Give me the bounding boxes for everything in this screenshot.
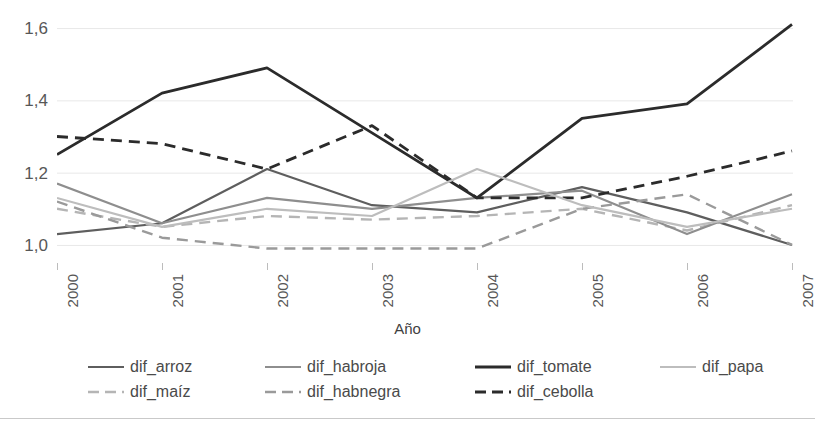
legend-swatch-icon-dif_papa [660,361,696,373]
legend-swatch-icon-dif_maíz [88,386,124,398]
legend-label-dif_maíz: dif_maíz [130,384,190,400]
legend-row-1: dif_arrozdif_habrojadif_tomatedif_papa [0,355,815,379]
x-tick-2007 [792,263,793,270]
series-line-dif_arroz [57,169,792,245]
gridlines [57,29,793,246]
line-chart: 1,01,21,41,6 200020012002200320042005200… [0,0,815,433]
x-axis: 20002001200220032004200520062007 [57,263,793,321]
x-tick-label-2004: 2004 [485,274,500,307]
legend-label-dif_tomate: dif_tomate [517,359,592,375]
x-tick-2001 [162,263,163,270]
legend-swatch-icon-dif_cebolla [475,386,511,398]
x-tick-label-2007: 2007 [800,274,815,307]
legend-item-dif_tomate[interactable]: dif_tomate [475,355,592,379]
x-tick-2000 [57,263,58,270]
legend-label-dif_cebolla: dif_cebolla [517,384,594,400]
legend-swatch-icon-dif_tomate [475,361,511,373]
x-tick-label-2002: 2002 [275,274,290,307]
legend-swatch-icon-dif_arroz [88,361,124,373]
legend-item-dif_maíz[interactable]: dif_maíz [88,380,190,404]
x-tick-label-2006: 2006 [695,274,710,307]
legend-item-dif_habnegra[interactable]: dif_habnegra [265,380,400,404]
series-lines [57,24,792,248]
legend-swatch-icon-dif_habnegra [265,386,301,398]
bottom-divider [0,418,815,419]
y-tick-label-1,2: 1,2 [24,164,48,181]
chart-title [0,0,815,2]
legend-label-dif_habnegra: dif_habnegra [307,384,400,400]
y-tick-label-1,4: 1,4 [24,92,48,109]
legend-item-dif_cebolla[interactable]: dif_cebolla [475,380,594,404]
x-tick-label-2005: 2005 [590,274,605,307]
series-line-dif_cebolla [57,126,792,198]
x-tick-2006 [687,263,688,270]
legend-label-dif_habroja: dif_habroja [307,359,386,375]
x-axis-title: Año [0,320,815,337]
plot-svg [57,10,793,263]
legend-swatch-icon-dif_habroja [265,361,301,373]
x-tick-label-2003: 2003 [380,274,395,307]
legend-item-dif_habroja[interactable]: dif_habroja [265,355,386,379]
chart-legend: dif_arrozdif_habrojadif_tomatedif_papa d… [0,355,815,407]
y-tick-label-1,6: 1,6 [24,20,48,37]
x-tick-label-2000: 2000 [65,274,80,307]
x-tick-label-2001: 2001 [170,274,185,307]
legend-item-dif_arroz[interactable]: dif_arroz [88,355,192,379]
x-tick-2002 [267,263,268,270]
y-axis-labels: 1,01,21,41,6 [0,10,48,263]
x-tick-2005 [582,263,583,270]
legend-label-dif_papa: dif_papa [702,359,763,375]
legend-row-2: dif_maízdif_habnegradif_cebolla [0,380,815,404]
y-tick-label-1,0: 1,0 [24,236,48,253]
plot-area [57,10,793,263]
legend-label-dif_arroz: dif_arroz [130,359,192,375]
series-line-dif_tomate [57,24,792,197]
x-tick-2004 [477,263,478,270]
legend-item-dif_papa[interactable]: dif_papa [660,355,763,379]
x-tick-2003 [372,263,373,270]
